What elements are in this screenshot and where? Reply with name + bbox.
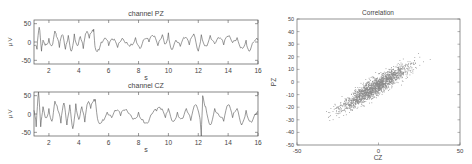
svg-text:-50: -50 [22, 129, 32, 136]
cz-title: channel CZ [128, 82, 165, 89]
svg-text:50: 50 [24, 20, 32, 27]
pz-x-ticks: 246810121416 [47, 20, 262, 74]
svg-text:50: 50 [288, 16, 294, 22]
svg-text:12: 12 [195, 67, 203, 74]
svg-text:0: 0 [27, 111, 31, 118]
svg-text:2: 2 [47, 67, 51, 74]
svg-text:16: 16 [254, 139, 262, 146]
svg-text:10: 10 [165, 67, 173, 74]
svg-text:4: 4 [77, 139, 81, 146]
svg-text:-50: -50 [293, 148, 302, 154]
pz-plot: channel PZ -50050 246810121416 s μ V [7, 10, 262, 81]
svg-text:50: 50 [24, 92, 32, 99]
svg-text:30: 30 [288, 41, 294, 47]
svg-text:0: 0 [291, 79, 294, 85]
svg-text:10: 10 [288, 66, 294, 72]
pz-signal-line [34, 27, 258, 51]
pz-title: channel PZ [128, 10, 164, 17]
figure: channel PZ -50050 246810121416 s μ V cha… [0, 0, 472, 164]
svg-text:-40: -40 [286, 129, 294, 135]
cz-axes-box [34, 92, 258, 136]
cz-y-ticks: -50050 [22, 92, 258, 136]
svg-text:2: 2 [47, 139, 51, 146]
corr-ylabel: PZ [270, 78, 277, 86]
svg-text:8: 8 [137, 139, 141, 146]
svg-text:8: 8 [137, 67, 141, 74]
svg-text:50: 50 [457, 148, 464, 154]
cz-ylabel: μ V [7, 109, 13, 118]
svg-text:20: 20 [288, 54, 294, 60]
svg-text:6: 6 [107, 67, 111, 74]
pz-xlabel: s [144, 74, 148, 81]
svg-text:14: 14 [225, 67, 233, 74]
cz-plot: channel CZ -50050 246810121416 s μ V [7, 82, 262, 153]
svg-text:-10: -10 [286, 92, 294, 98]
svg-text:14: 14 [225, 139, 233, 146]
svg-text:4: 4 [77, 67, 81, 74]
svg-text:0: 0 [27, 39, 31, 46]
svg-text:12: 12 [195, 139, 203, 146]
svg-text:10: 10 [165, 139, 173, 146]
corr-x-ticks: -50050 [293, 143, 464, 155]
pz-y-ticks: -50050 [22, 20, 258, 64]
corr-title: Correlation [362, 9, 394, 16]
cz-signal-line [34, 92, 258, 136]
svg-text:6: 6 [107, 139, 111, 146]
svg-text:-30: -30 [286, 117, 294, 123]
pz-ylabel: μ V [7, 37, 13, 46]
correlation-plot: Correlation -50-40-30-20-1001020304050 -… [270, 9, 464, 161]
corr-xlabel: CZ [374, 154, 383, 161]
svg-text:-20: -20 [286, 104, 294, 110]
scatter-points [326, 53, 430, 121]
cz-xlabel: s [144, 146, 148, 153]
svg-text:-50: -50 [22, 57, 32, 64]
svg-text:16: 16 [254, 67, 262, 74]
svg-text:40: 40 [288, 29, 294, 35]
